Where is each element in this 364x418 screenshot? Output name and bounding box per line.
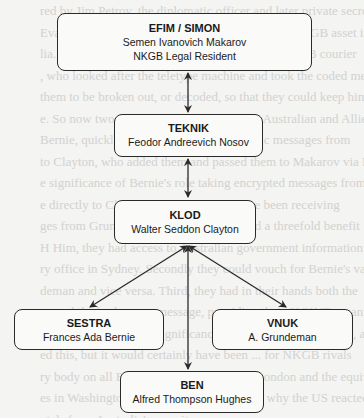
node-vnuk: VNUK A. Grundeman (212, 309, 353, 350)
node-codename: BEN (121, 378, 263, 392)
node-name: Frances Ada Bernie (15, 330, 163, 344)
node-name: Alfred Thompson Hughes (121, 392, 263, 406)
node-sestra: SESTRA Frances Ada Bernie (14, 309, 164, 350)
node-klod: KLOD Walter Seddon Clayton (114, 200, 256, 244)
node-efim-simon: EFIM / SIMON Semen Ivanovich Makarov NKG… (57, 13, 312, 71)
node-role: NKGB Legal Resident (58, 49, 311, 63)
node-ben: BEN Alfred Thompson Hughes (120, 371, 264, 413)
node-name: A. Grundeman (213, 330, 352, 344)
node-teknik: TEKNIK Feodor Andreevich Nosov (114, 114, 263, 157)
node-name: Walter Seddon Clayton (115, 222, 255, 236)
arrow-klod-vnuk (189, 246, 286, 307)
node-codename: SESTRA (15, 316, 163, 330)
node-name: Semen Ivanovich Makarov (58, 35, 311, 49)
node-codename: TEKNIK (115, 121, 262, 135)
node-name: Feodor Andreevich Nosov (115, 135, 262, 149)
arrow-klod-sestra (90, 246, 187, 307)
node-codename: EFIM / SIMON (58, 21, 311, 35)
node-codename: KLOD (115, 208, 255, 222)
node-codename: VNUK (213, 316, 352, 330)
